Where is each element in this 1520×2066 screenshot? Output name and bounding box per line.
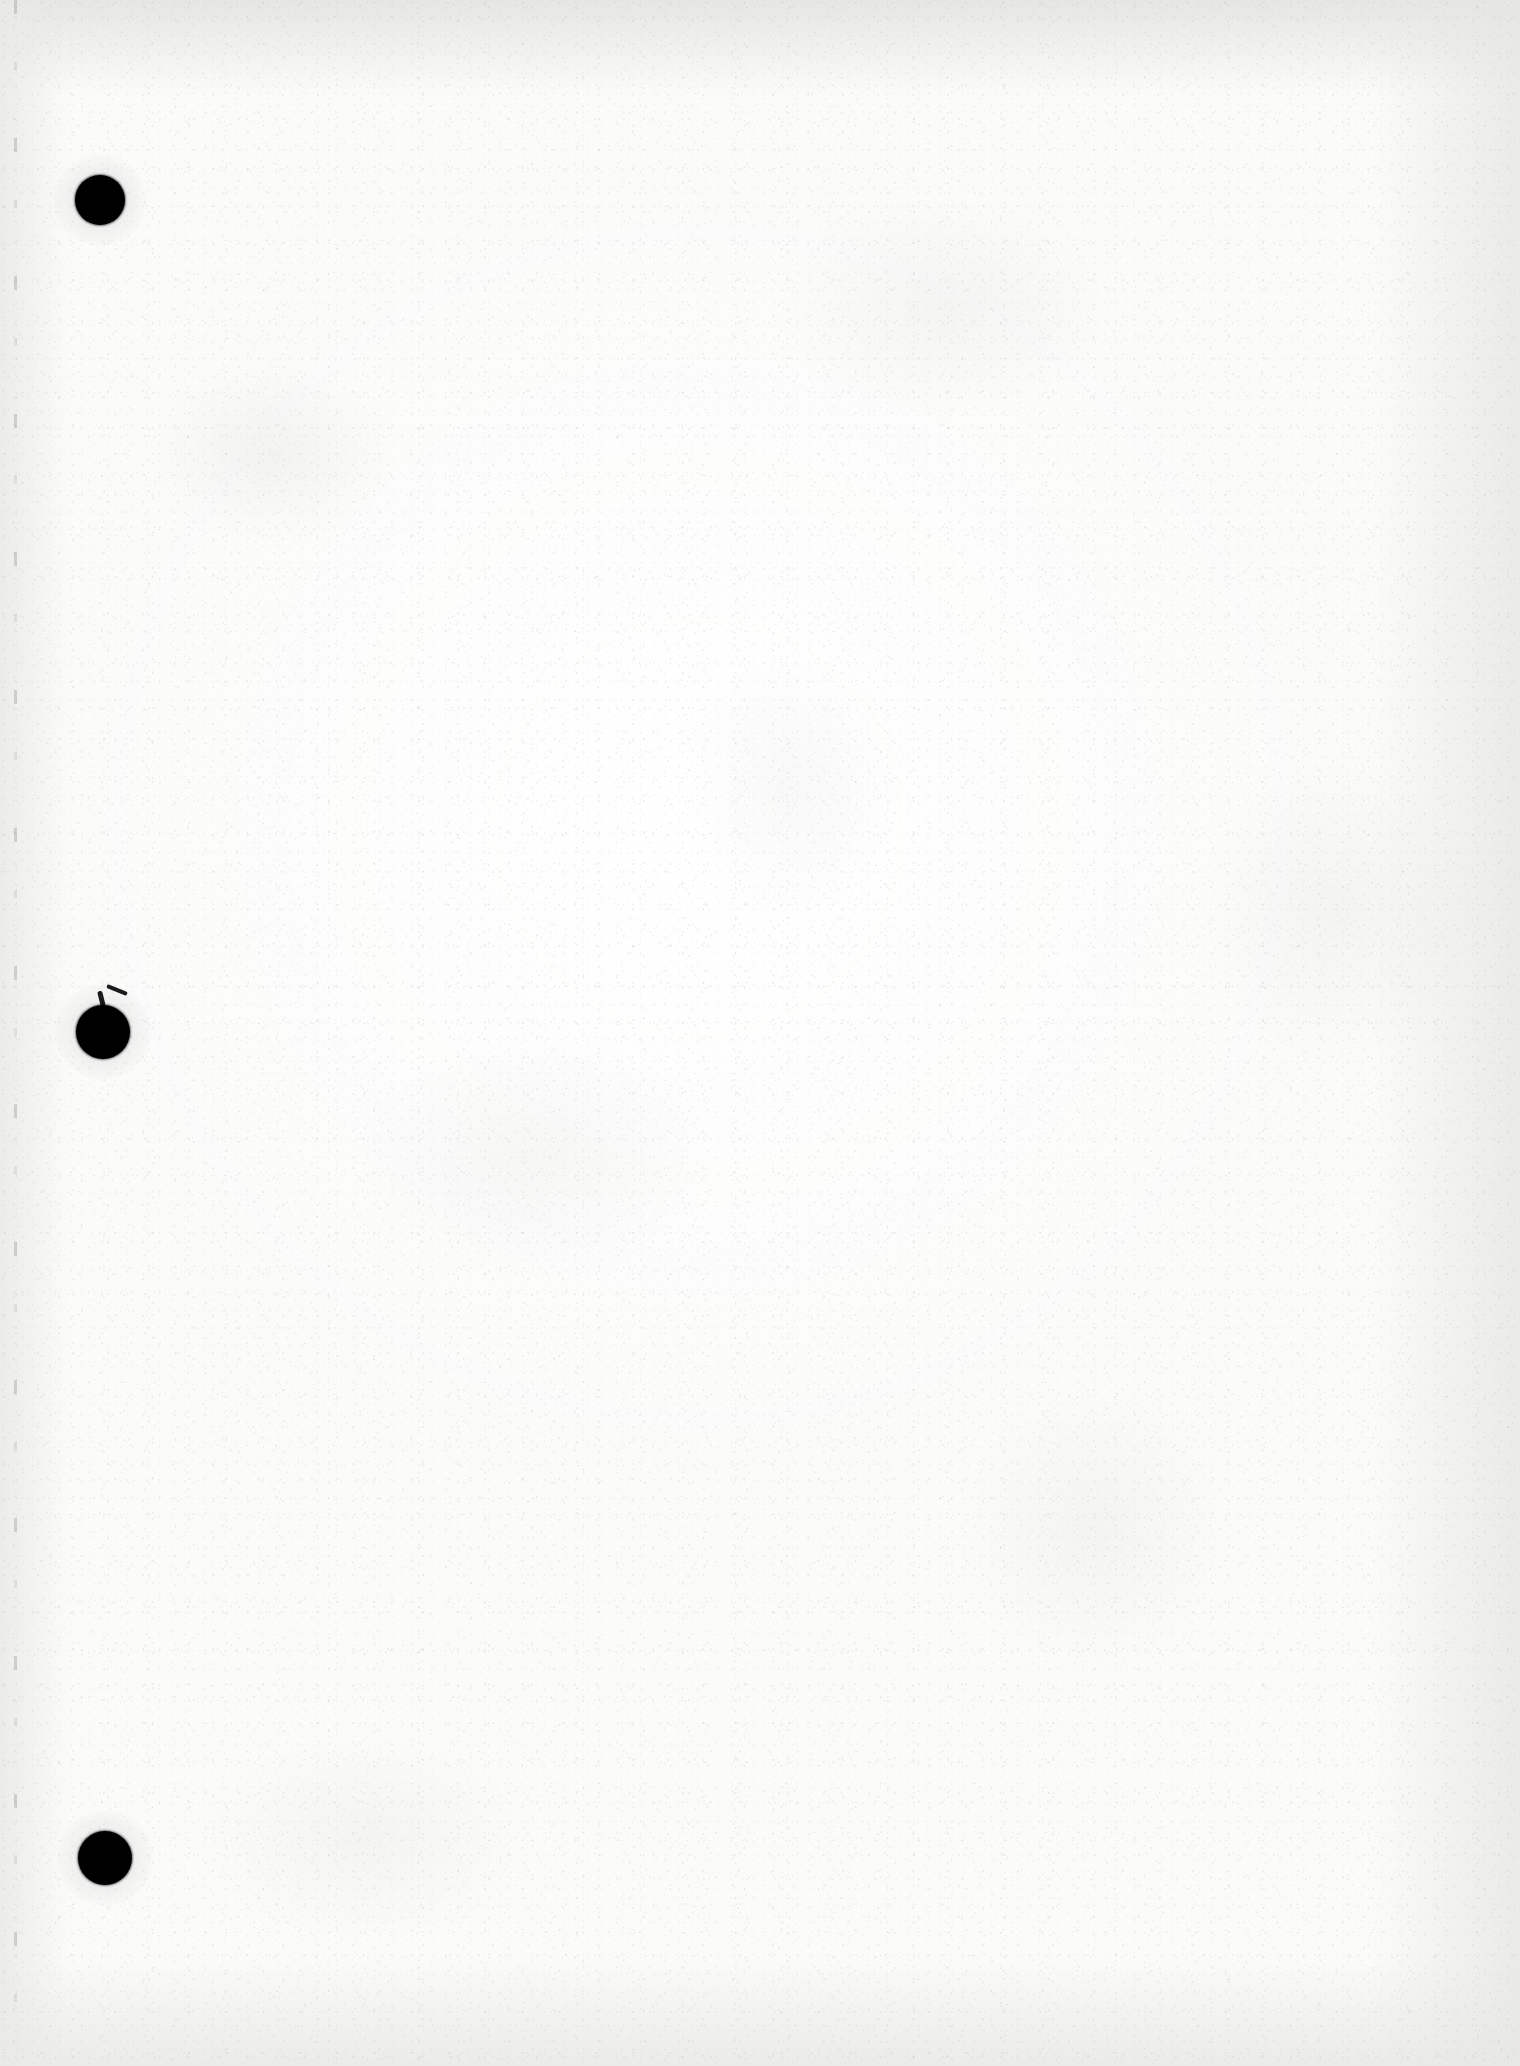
punch-hole-middle-tear: [106, 984, 128, 996]
scanned-page: [0, 0, 1520, 2066]
punch-hole-top: [75, 175, 125, 225]
paper-grain-fine: [0, 0, 1520, 2066]
paper-grain-coarse: [0, 0, 1520, 2066]
paper-mottling: [0, 0, 1520, 2066]
punch-hole-middle: [76, 1005, 130, 1059]
scan-edge-artifact-line: [14, 0, 17, 2066]
punch-hole-bottom: [78, 1831, 132, 1885]
